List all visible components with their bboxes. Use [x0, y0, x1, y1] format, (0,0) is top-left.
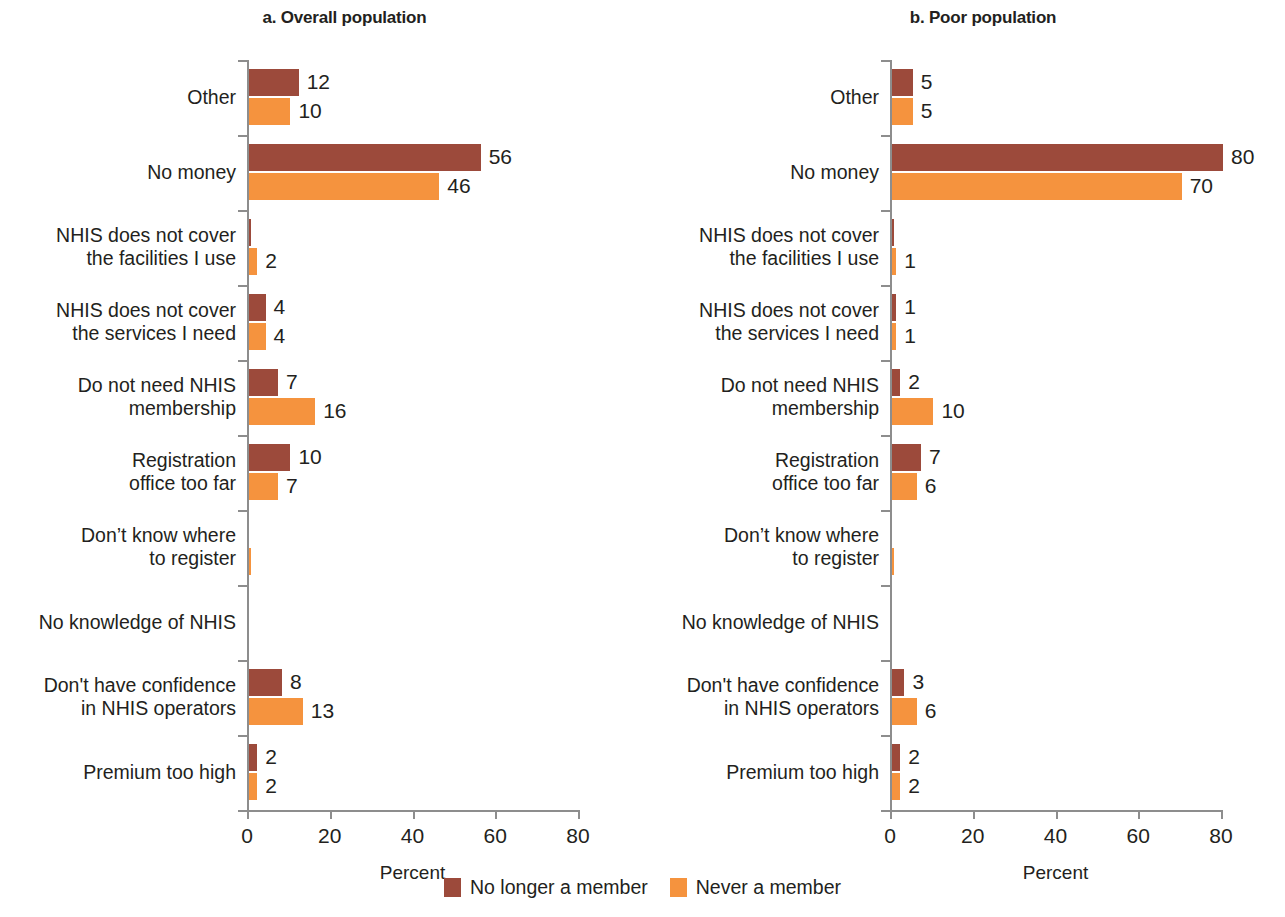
- bar-value-label: 10: [298, 100, 321, 121]
- bar-never-member: [249, 248, 257, 275]
- bar-value-label: 10: [298, 446, 321, 467]
- bar-never-member: [249, 698, 303, 725]
- chart-row: No money5646: [0, 135, 642, 210]
- category-label: Premium too high: [83, 761, 236, 785]
- bar-value-label: 2: [908, 371, 920, 392]
- bar-value-label: 2: [265, 746, 277, 767]
- x-axis-tick: [973, 810, 975, 819]
- bar-value-label: 1: [904, 250, 916, 271]
- legend-item: No longer a member: [444, 876, 648, 899]
- legend-swatch-icon: [444, 878, 461, 897]
- bar-value-label: 3: [912, 671, 924, 692]
- bar-no-longer-member: [892, 294, 896, 321]
- category-label: Registration office too far: [772, 449, 879, 497]
- category-label: NHIS does not cover the facilities I use: [699, 224, 879, 272]
- bar-value-label: 2: [265, 775, 277, 796]
- bar-no-longer-member: [892, 219, 894, 246]
- x-axis-tick: [495, 810, 497, 819]
- bar-value-label: 46: [447, 175, 470, 196]
- bar-value-label: 80: [1231, 146, 1254, 167]
- chart-row: NHIS does not cover the facilities I use…: [643, 210, 1285, 285]
- bar-never-member: [249, 323, 266, 350]
- bar-value-label: 8: [290, 671, 302, 692]
- x-axis-tick-label: 0: [217, 824, 277, 848]
- bar-never-member: [249, 398, 315, 425]
- chart-row: Other55: [643, 60, 1285, 135]
- chart-row: Don't have confidence in NHIS operators8…: [0, 660, 642, 735]
- bar-value-label: 5: [921, 100, 933, 121]
- category-label: Don't have confidence in NHIS operators: [687, 674, 879, 722]
- bar-value-label: 6: [925, 475, 937, 496]
- bar-value-label: 5: [921, 71, 933, 92]
- bar-never-member: [249, 548, 251, 575]
- chart-row: Do not need NHIS membership716: [0, 360, 642, 435]
- x-axis-tick: [890, 810, 892, 819]
- y-axis-tick: [881, 810, 890, 812]
- bar-never-member: [892, 698, 917, 725]
- chart-row: Don’t know where to register: [0, 510, 642, 585]
- bar-no-longer-member: [249, 369, 278, 396]
- bar-no-longer-member: [249, 444, 290, 471]
- bar-never-member: [892, 773, 900, 800]
- bar-never-member: [249, 473, 278, 500]
- bar-never-member: [892, 548, 894, 575]
- bar-value-label: 2: [908, 746, 920, 767]
- bar-never-member: [892, 98, 913, 125]
- category-label: NHIS does not cover the facilities I use: [56, 224, 236, 272]
- x-axis-tick-label: 20: [943, 824, 1003, 848]
- x-axis-tick-label: 40: [1026, 824, 1086, 848]
- bar-value-label: 70: [1190, 175, 1213, 196]
- x-axis-tick-label: 20: [300, 824, 360, 848]
- chart-row: NHIS does not cover the services I need1…: [643, 285, 1285, 360]
- x-axis-tick-label: 40: [383, 824, 443, 848]
- chart-row: Registration office too far76: [643, 435, 1285, 510]
- panel-b-title: b. Poor population: [643, 8, 1285, 28]
- bar-no-longer-member: [249, 69, 299, 96]
- chart-panel-a: a. Overall population 020406080Other1210…: [0, 0, 642, 917]
- category-label: NHIS does not cover the services I need: [699, 299, 879, 347]
- category-label: Do not need NHIS membership: [721, 374, 879, 422]
- category-label: Don’t know where to register: [724, 524, 879, 572]
- chart-row: Don’t know where to register: [643, 510, 1285, 585]
- x-axis-tick: [1138, 810, 1140, 819]
- bar-never-member: [892, 473, 917, 500]
- bar-no-longer-member: [249, 669, 282, 696]
- x-axis-tick-label: 0: [860, 824, 920, 848]
- bar-value-label: 4: [274, 325, 286, 346]
- chart-row: Registration office too far107: [0, 435, 642, 510]
- x-axis-tick: [247, 810, 249, 819]
- chart-row: No money8070: [643, 135, 1285, 210]
- category-label: Don’t know where to register: [81, 524, 236, 572]
- bar-no-longer-member: [249, 294, 266, 321]
- x-axis-tick: [578, 810, 580, 819]
- bar-no-longer-member: [892, 369, 900, 396]
- bar-value-label: 2: [265, 250, 277, 271]
- bar-value-label: 13: [311, 700, 334, 721]
- chart-panel-b: b. Poor population 020406080Other55No mo…: [643, 0, 1285, 917]
- bar-value-label: 12: [307, 71, 330, 92]
- bar-never-member: [892, 323, 896, 350]
- chart-row: No knowledge of NHIS: [643, 585, 1285, 660]
- y-axis-tick: [238, 810, 247, 812]
- bar-value-label: 7: [286, 475, 298, 496]
- category-label: Other: [187, 86, 236, 110]
- bar-value-label: 10: [941, 400, 964, 421]
- chart-row: Do not need NHIS membership210: [643, 360, 1285, 435]
- panel-a-title: a. Overall population: [0, 8, 642, 28]
- bar-value-label: 1: [904, 296, 916, 317]
- bar-value-label: 7: [929, 446, 941, 467]
- category-label: Premium too high: [726, 761, 879, 785]
- x-axis-tick-label: 60: [465, 824, 525, 848]
- bar-value-label: 1: [904, 325, 916, 346]
- bar-value-label: 6: [925, 700, 937, 721]
- legend-label: No longer a member: [470, 876, 648, 899]
- bar-no-longer-member: [892, 69, 913, 96]
- chart-row: Don't have confidence in NHIS operators3…: [643, 660, 1285, 735]
- category-label: No knowledge of NHIS: [39, 611, 236, 635]
- bar-value-label: 7: [286, 371, 298, 392]
- bar-no-longer-member: [892, 144, 1223, 171]
- legend-swatch-icon: [670, 878, 687, 897]
- bar-never-member: [249, 773, 257, 800]
- bar-never-member: [892, 398, 933, 425]
- bar-value-label: 56: [489, 146, 512, 167]
